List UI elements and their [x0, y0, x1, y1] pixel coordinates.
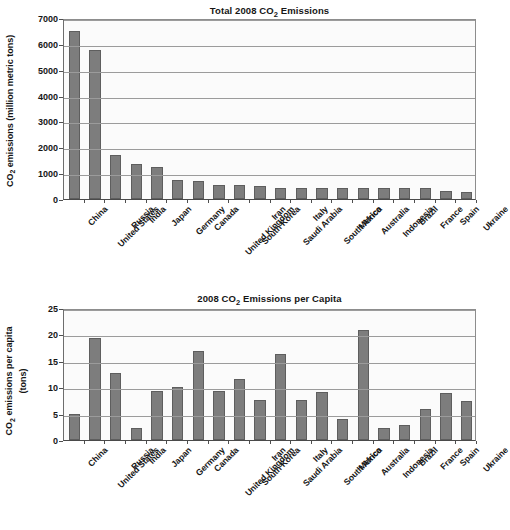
x-axis-tick-mark — [84, 200, 85, 203]
bar — [461, 192, 472, 199]
x-axis-tick-mark — [331, 200, 332, 203]
bar — [378, 188, 389, 199]
x-axis-tick-mark — [476, 200, 477, 203]
bar — [151, 167, 162, 199]
y-axis-tick-label: 0 — [53, 195, 58, 205]
gridline — [64, 20, 475, 21]
x-axis-tick-mark — [414, 441, 415, 444]
x-axis-tick-mark — [187, 200, 188, 203]
gridline — [64, 123, 475, 124]
bar — [358, 188, 369, 199]
bar — [213, 185, 224, 199]
gridline — [64, 149, 475, 150]
bar — [440, 191, 451, 199]
gridline — [64, 389, 475, 390]
x-axis-tick-mark — [352, 200, 353, 203]
x-axis-tick-mark — [146, 441, 147, 444]
bar — [378, 428, 389, 440]
bar — [131, 164, 142, 199]
x-axis-tick-label: Ukraine — [481, 445, 510, 474]
y-axis-tick-mark — [59, 71, 63, 72]
bar — [69, 31, 80, 199]
bar — [296, 400, 307, 440]
bar — [337, 188, 348, 199]
chart-per-capita-emissions: 2008 CO2 Emissions per Capita CO2 emissi… — [0, 265, 486, 530]
bar — [172, 180, 183, 199]
x-axis-tick-label: China — [86, 204, 110, 228]
y-axis-tick-mark — [59, 362, 63, 363]
x-axis-tick-label: Ukraine — [481, 204, 510, 233]
bar — [254, 186, 265, 199]
bar — [172, 387, 183, 440]
bar — [234, 185, 245, 199]
plot-area-total — [63, 19, 476, 200]
y-axis-tick-label: 3000 — [38, 117, 58, 127]
x-axis-tick-mark — [166, 200, 167, 203]
x-axis-tick-mark — [435, 441, 436, 444]
y-axis-tick-mark — [59, 441, 63, 442]
y-axis-tick-label: 25 — [48, 304, 58, 314]
x-axis-tick-mark — [352, 441, 353, 444]
x-axis-tick-label: China — [86, 445, 110, 469]
bar — [110, 373, 121, 440]
y-axis-tick-mark — [59, 388, 63, 389]
y-axis-tick-mark — [59, 19, 63, 20]
bar — [399, 188, 410, 199]
x-axis-tick-mark — [270, 441, 271, 444]
y-axis-tick-label: 2000 — [38, 143, 58, 153]
bar — [296, 188, 307, 199]
bar — [254, 400, 265, 440]
chart-title-per-capita: 2008 CO2 Emissions per Capita — [63, 293, 476, 307]
y-axis-tick-mark — [59, 45, 63, 46]
bar — [275, 354, 286, 440]
bar — [316, 188, 327, 199]
x-axis-tick-mark — [393, 441, 394, 444]
x-axis-tick-mark — [373, 200, 374, 203]
x-axis-tick-mark — [373, 441, 374, 444]
y-axis-tick-mark — [59, 335, 63, 336]
x-axis-tick-mark — [228, 200, 229, 203]
bar — [193, 181, 204, 199]
chart-total-emissions: Total 2008 CO2 Emissions CO2 emissions (… — [0, 0, 486, 265]
x-axis-tick-mark — [455, 200, 456, 203]
y-axis-tick-mark — [59, 97, 63, 98]
bar — [110, 155, 121, 199]
x-axis-tick-mark — [290, 200, 291, 203]
x-axis-tick-mark — [166, 441, 167, 444]
bar — [399, 425, 410, 440]
bar — [358, 330, 369, 440]
x-axis-tick-mark — [455, 441, 456, 444]
y-axis-tick-mark — [59, 174, 63, 175]
x-axis-tick-mark — [104, 441, 105, 444]
x-axis-tick-mark — [249, 200, 250, 203]
x-axis-tick-label: Japan — [169, 204, 193, 228]
gridline — [64, 310, 475, 311]
x-axis-tick-mark — [393, 200, 394, 203]
plot-area-per-capita — [63, 309, 476, 441]
x-axis-tick-mark — [187, 441, 188, 444]
bar — [69, 414, 80, 440]
y-axis-tick-label: 7000 — [38, 14, 58, 24]
bar — [461, 401, 472, 440]
gridline — [64, 46, 475, 47]
x-axis-tick-label: Brazil — [416, 445, 439, 468]
y-axis-tick-mark — [59, 200, 63, 201]
x-axis-tick-mark — [228, 441, 229, 444]
x-axis-tick-mark — [104, 200, 105, 203]
bar-series-per-capita — [64, 310, 475, 440]
x-axis-tick-mark — [290, 441, 291, 444]
x-axis-tick-label: Japan — [169, 445, 193, 469]
x-axis-tick-mark — [311, 441, 312, 444]
y-axis-tick-label: 0 — [53, 436, 58, 446]
y-axis-tick-label: 1000 — [38, 169, 58, 179]
y-axis-tick-label: 5 — [53, 410, 58, 420]
x-axis-tick-mark — [249, 441, 250, 444]
gridline — [64, 98, 475, 99]
x-axis-tick-label: Brazil — [416, 204, 439, 227]
x-axis-tick-mark — [208, 441, 209, 444]
bar — [337, 419, 348, 440]
y-axis-title-total: CO2 emissions (million metric tons) — [4, 14, 18, 207]
gridline — [64, 416, 475, 417]
x-axis-tick-mark — [84, 441, 85, 444]
x-axis-tick-mark — [125, 441, 126, 444]
